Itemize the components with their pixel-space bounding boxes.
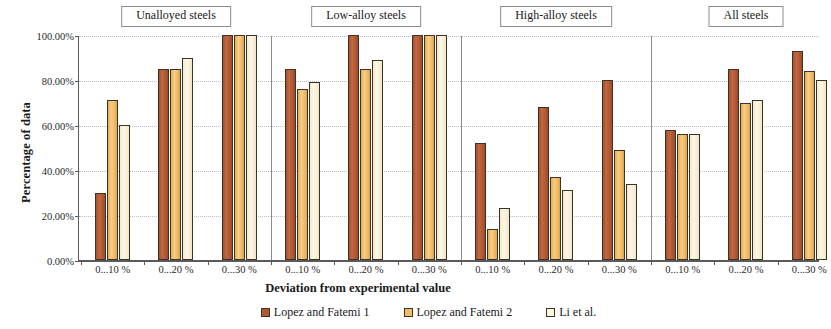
y-tick-mark	[75, 36, 79, 37]
x-tick-label: 0...10 %	[95, 264, 130, 275]
x-tick-label: 0...20 %	[348, 264, 383, 275]
bar	[170, 69, 181, 260]
bar	[804, 71, 815, 260]
bar-cluster	[144, 36, 207, 260]
bar	[246, 35, 257, 260]
bar	[412, 35, 423, 260]
bar	[107, 100, 118, 260]
bar	[689, 134, 700, 260]
x-tick-label: 0...30 %	[792, 264, 827, 275]
bar	[550, 177, 561, 260]
bar	[487, 229, 498, 261]
category-group: 0...30 %	[398, 36, 461, 260]
bar	[626, 184, 637, 261]
chart-panel: Low-alloy steels0...10 %0...20 %0...30 %	[271, 36, 461, 260]
y-tick-label: 100.00%	[0, 31, 74, 42]
x-tick-mark	[144, 261, 145, 265]
bar	[602, 80, 613, 260]
x-tick-mark	[398, 261, 399, 265]
bar	[436, 35, 447, 260]
x-tick-label: 0...20 %	[728, 264, 763, 275]
legend-label: Lopez and Fatemi 1	[274, 305, 370, 320]
category-group: 0...20 %	[334, 36, 397, 260]
legend-swatch-icon	[404, 308, 413, 317]
y-tick-mark	[75, 81, 79, 82]
panel-title: Low-alloy steels	[311, 6, 421, 27]
x-tick-mark	[651, 261, 652, 265]
bar	[752, 100, 763, 260]
chart-panel: Unalloyed steels0...10 %0...20 %0...30 %	[81, 36, 271, 260]
bar-cluster	[778, 36, 831, 260]
bar-cluster	[81, 36, 144, 260]
bar	[614, 150, 625, 260]
x-tick-mark	[524, 261, 525, 265]
legend-entry: Lopez and Fatemi 1	[261, 305, 370, 320]
x-axis-title: Deviation from experimental value	[78, 281, 638, 296]
bar	[792, 51, 803, 260]
x-tick-label: 0...30 %	[412, 264, 447, 275]
bar	[234, 35, 245, 260]
bar	[297, 89, 308, 260]
bar-cluster	[398, 36, 461, 260]
bar-cluster	[524, 36, 587, 260]
bar-cluster	[651, 36, 714, 260]
bar	[348, 35, 359, 260]
category-group: 0...10 %	[461, 36, 524, 260]
bar	[372, 60, 383, 260]
legend-label: Li et al.	[559, 305, 596, 320]
y-tick-label: 20.00%	[0, 211, 74, 222]
y-tick-label: 60.00%	[0, 121, 74, 132]
y-gridline	[79, 261, 819, 262]
y-tick-mark	[75, 126, 79, 127]
x-tick-mark	[778, 261, 779, 265]
bar-cluster	[714, 36, 777, 260]
bar	[119, 125, 130, 260]
category-group: 0...10 %	[81, 36, 144, 260]
x-tick-label: 0...10 %	[475, 264, 510, 275]
x-tick-mark	[271, 261, 272, 265]
chart-panel: High-alloy steels0...10 %0...20 %0...30 …	[461, 36, 651, 260]
bar	[562, 190, 573, 260]
bar	[816, 80, 827, 260]
y-tick-label: 0.00%	[0, 256, 74, 267]
x-tick-mark	[81, 261, 82, 265]
category-group: 0...20 %	[524, 36, 587, 260]
y-tick-label: 80.00%	[0, 76, 74, 87]
x-tick-mark	[588, 261, 589, 265]
x-tick-label: 0...20 %	[538, 264, 573, 275]
bar	[499, 208, 510, 260]
category-group: 0...20 %	[144, 36, 207, 260]
bar	[677, 134, 688, 260]
legend-swatch-icon	[546, 308, 555, 317]
bar	[95, 193, 106, 261]
y-tick-mark	[75, 171, 79, 172]
bar	[158, 69, 169, 260]
chart-panel: All steels0...10 %0...20 %0...30 %	[651, 36, 831, 260]
bar	[182, 58, 193, 261]
bar	[728, 69, 739, 260]
bar	[222, 35, 233, 260]
x-tick-mark	[461, 261, 462, 265]
y-tick-label: 40.00%	[0, 166, 74, 177]
x-tick-label: 0...10 %	[285, 264, 320, 275]
category-group: 0...20 %	[714, 36, 777, 260]
plot-area: 0.00%20.00%40.00%60.00%80.00%100.00%Unal…	[78, 36, 819, 261]
legend-entry: Lopez and Fatemi 2	[404, 305, 513, 320]
bar	[309, 82, 320, 260]
bar	[740, 103, 751, 261]
category-group: 0...30 %	[778, 36, 831, 260]
bar	[538, 107, 549, 260]
chart-legend: Lopez and Fatemi 1Lopez and Fatemi 2Li e…	[0, 305, 819, 320]
panel-title: All steels	[709, 6, 784, 27]
bar-cluster	[208, 36, 271, 260]
x-tick-mark	[208, 261, 209, 265]
category-group: 0...30 %	[588, 36, 651, 260]
x-tick-mark	[714, 261, 715, 265]
x-tick-mark	[334, 261, 335, 265]
y-tick-mark	[75, 261, 79, 262]
category-group: 0...10 %	[271, 36, 334, 260]
x-tick-label: 0...30 %	[222, 264, 257, 275]
bar	[665, 130, 676, 261]
x-tick-label: 0...10 %	[665, 264, 700, 275]
